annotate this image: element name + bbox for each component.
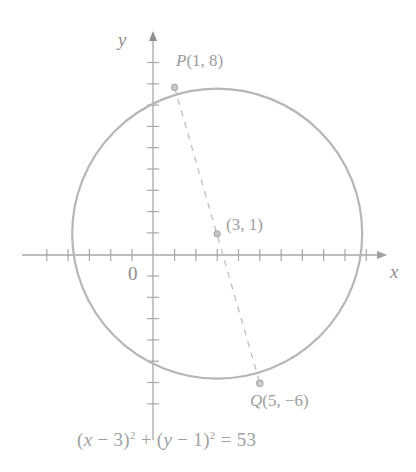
origin-label: 0 <box>128 264 138 283</box>
eq-equals-53: = 53 <box>216 429 257 450</box>
eq-plus-open: + ( <box>136 429 164 450</box>
x-axis-label: x <box>390 262 398 281</box>
circle-equation-label: (x − 3)2 + (y − 1)2 = 53 <box>77 430 256 449</box>
point-p-label: P(1, 8) <box>176 52 223 69</box>
eq-open-paren: ( <box>77 429 84 450</box>
point-q-marker <box>257 380 263 386</box>
point-center-label: (3, 1) <box>226 216 263 233</box>
point-q-coords: (5, −6) <box>262 391 308 410</box>
point-p-letter: P <box>176 51 186 70</box>
circle-diagram-figure: y x 0 P(1, 8) (3, 1) Q(5, −6) (x − 3)2 +… <box>0 0 416 472</box>
point-center-marker <box>214 231 220 237</box>
point-p-coords: (1, 8) <box>186 51 223 70</box>
y-axis-label: y <box>118 30 126 49</box>
eq-minus-three: − 3) <box>92 429 130 450</box>
eq-minus-one: − 1) <box>172 429 210 450</box>
point-q-label: Q(5, −6) <box>250 392 309 409</box>
point-q-letter: Q <box>250 391 262 410</box>
point-p-marker <box>172 84 178 90</box>
eq-var-y: y <box>163 429 172 450</box>
plot-canvas <box>0 0 416 472</box>
